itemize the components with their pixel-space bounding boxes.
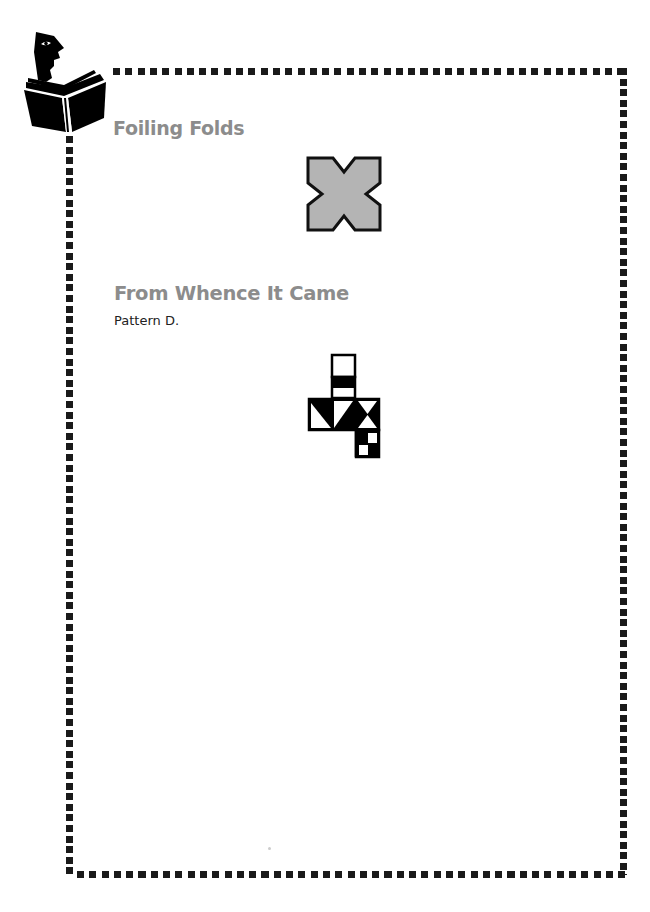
border-bottom bbox=[77, 871, 627, 878]
section-title-from-whence-it-came: From Whence It Came bbox=[114, 282, 349, 305]
scan-speck bbox=[268, 847, 271, 850]
answer-text: Pattern D. bbox=[114, 313, 179, 328]
section-title-foiling-folds: Foiling Folds bbox=[113, 117, 244, 139]
cube-net-pattern-d-figure bbox=[305, 353, 385, 459]
cross-shape-figure bbox=[305, 155, 383, 233]
border-left bbox=[66, 136, 73, 878]
reading-man-icon bbox=[24, 30, 108, 132]
border-top bbox=[113, 68, 625, 75]
border-right bbox=[620, 68, 627, 875]
